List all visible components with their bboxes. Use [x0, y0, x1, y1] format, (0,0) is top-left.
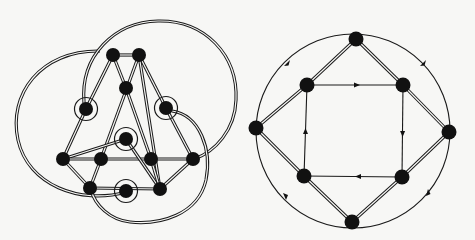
arrow-icon: [354, 83, 360, 88]
graph-vertex: [345, 215, 360, 230]
graph-vertex: [94, 152, 108, 166]
graph-vertex: [83, 181, 97, 195]
graph-vertex: [396, 78, 411, 93]
graph-vertex: [186, 152, 200, 166]
diagram-canvas: [0, 0, 475, 240]
graph-edge-inner: [304, 176, 352, 222]
graph-vertex: [106, 48, 120, 62]
arrow-icon: [284, 60, 290, 66]
inner-square: [303, 83, 405, 180]
large-arc-left: [16, 51, 126, 196]
graph-vertex: [297, 169, 312, 184]
graph-vertex: [159, 101, 173, 115]
left-edges: [63, 55, 193, 189]
graph-vertex: [249, 121, 264, 136]
arrow-icon: [303, 128, 308, 134]
graph-edge-inner: [256, 85, 307, 128]
right-graph: [249, 32, 457, 230]
graph-vertex: [119, 132, 133, 146]
graph-vertex: [153, 182, 167, 196]
large-arc-left-inner: [16, 51, 126, 196]
graph-vertex: [144, 152, 158, 166]
graph-vertex: [395, 170, 410, 185]
graph-vertex: [119, 81, 133, 95]
arrow-icon: [400, 131, 405, 137]
graph-edge-inner: [356, 39, 403, 85]
graph-vertex: [119, 184, 133, 198]
left-graph: [16, 21, 236, 223]
arrow-icon: [355, 174, 361, 179]
graph-vertex: [56, 152, 70, 166]
directed-edge-bottom: [304, 176, 402, 177]
graph-edge-inner: [307, 39, 356, 85]
graph-vertex: [300, 78, 315, 93]
arrow-icon: [420, 60, 426, 66]
graph-edge-inner: [166, 108, 193, 159]
large-arc-upper-right-inner: [84, 21, 236, 159]
graph-vertex: [349, 32, 364, 47]
graph-vertex: [442, 125, 457, 140]
outer-circle: [256, 34, 450, 228]
graph-edge-inner: [352, 177, 402, 222]
graph-vertex: [79, 102, 93, 116]
graph-vertex: [132, 48, 146, 62]
